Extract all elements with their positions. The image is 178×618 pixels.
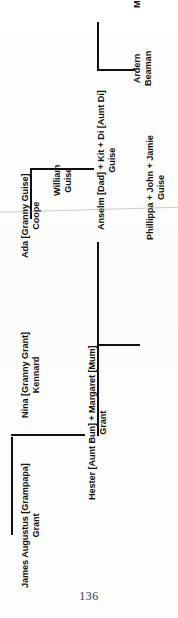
connector-guise-couple-bar <box>30 168 32 219</box>
page-number: 136 <box>0 589 178 604</box>
connector-children-bar <box>97 242 99 346</box>
node-line1: Nina [Granny Grant] <box>20 332 31 418</box>
scanned-page: William Guise Ada [Granny Guise] Coope A… <box>0 0 178 618</box>
node-line1: James Augustus [Grampapa] <box>20 463 31 588</box>
connector-grant-couple-stem <box>11 434 85 436</box>
tree-node-mike-david-beaman: Mike + David Beaman <box>132 0 154 8</box>
connector-grant-to-children-bar <box>97 346 99 436</box>
node-line2: Coope <box>31 174 42 258</box>
connector-beaman-stem <box>97 69 135 71</box>
node-line2: Grant <box>31 463 42 588</box>
node-line1: Phillippa + John + Jamie <box>145 135 156 240</box>
tree-node-james-augustus-grant: James Augustus [Grampapa] Grant <box>20 463 42 588</box>
node-line2: Guise <box>156 135 167 240</box>
node-line2: Kennard <box>31 332 42 418</box>
connector-guise-couple-stem <box>30 168 94 170</box>
node-line2: Beaman <box>143 51 154 86</box>
node-line1: Mike + David <box>132 0 143 8</box>
node-line1: Anselm [Dad] + Kit + Di [Aunt Di] <box>96 90 107 230</box>
connector-beaman-bar <box>97 22 99 70</box>
tree-node-phillippa-john-jamie-guise: Phillippa + John + Jamie Guise <box>145 135 167 240</box>
tree-node-nina-kennard: Nina [Granny Grant] Kennard <box>20 332 42 418</box>
node-line2: Grant <box>98 345 109 500</box>
connector-grant-couple-bar <box>11 437 13 535</box>
tree-node-anselm-kit-di-guise: Anselm [Dad] + Kit + Di [Aunt Di] Guise <box>96 90 118 230</box>
tree-node-ardern-beaman: Ardern Beaman <box>132 51 154 86</box>
node-line2: Beaman <box>143 0 154 8</box>
node-line2: Guise <box>107 90 118 230</box>
